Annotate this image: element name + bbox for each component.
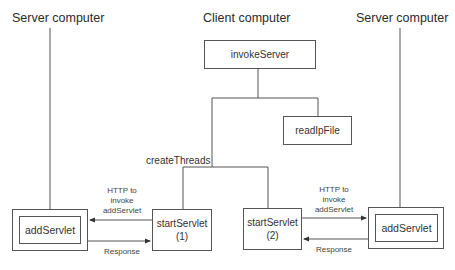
left-response-label: Response <box>98 247 146 257</box>
right-add-servlet-node: addServlet <box>375 214 438 242</box>
invoke-server-node: invokeServer <box>204 40 316 69</box>
start-servlet-2-node: startServlet (2) <box>243 208 302 250</box>
start-servlet-1-node: startServlet (1) <box>152 209 212 251</box>
left-request-label: HTTP to invoke addServlet <box>98 186 146 216</box>
invoke-server-label: invokeServer <box>231 49 289 60</box>
left-add-servlet-label: addServlet <box>25 224 75 236</box>
start-servlet-1-index: (1) <box>176 230 188 243</box>
right-request-label: HTTP to invoke addServlet <box>310 185 358 215</box>
start-servlet-2-name: startServlet <box>247 216 298 229</box>
left-add-servlet-container: addServlet <box>12 209 88 251</box>
create-threads-label: createThreads <box>146 155 210 166</box>
start-servlet-1-name: startServlet <box>157 217 208 230</box>
client-title: Client computer <box>203 11 291 25</box>
left-add-servlet-node: addServlet <box>19 216 81 244</box>
right-add-servlet-label: addServlet <box>381 222 431 234</box>
right-server-title: Server computer <box>356 11 448 25</box>
read-ip-file-node: readIpFile <box>283 116 352 145</box>
start-servlet-2-index: (2) <box>266 229 278 242</box>
right-response-label: Response <box>310 245 358 255</box>
left-server-title: Server computer <box>12 11 104 25</box>
right-add-servlet-container: addServlet <box>368 207 444 249</box>
read-ip-file-label: readIpFile <box>295 125 339 136</box>
